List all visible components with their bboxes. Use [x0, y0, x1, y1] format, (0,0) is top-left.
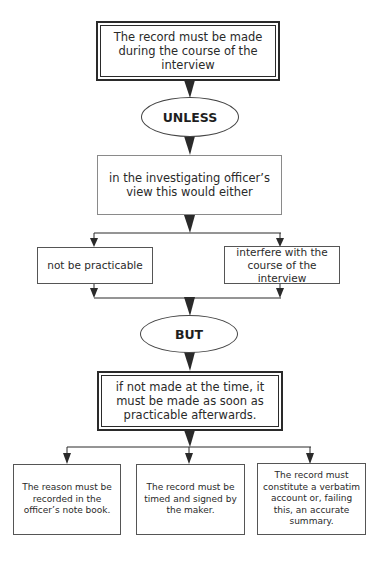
requirement-box-2: The record must be timed and signed by t…	[136, 464, 245, 535]
condition-box: in the investigating officer’s view this…	[97, 155, 282, 215]
requirement-box-1: The reason must be recorded in the offic…	[13, 464, 121, 535]
arrow-icon	[90, 288, 98, 298]
arrow-icon	[184, 136, 195, 155]
arrow-icon	[184, 430, 195, 447]
arrow-icon	[90, 238, 98, 247]
arrow-icon	[184, 297, 195, 316]
fallback-text: if not made at the time, it must be made…	[99, 380, 281, 422]
arrow-icon	[184, 80, 195, 98]
condition-text: in the investigating officer’s view this…	[98, 171, 281, 199]
requirement-text-2: The record must be timed and signed by t…	[137, 482, 244, 517]
requirement-text-1: The reason must be recorded in the offic…	[14, 482, 120, 517]
arrow-icon	[276, 288, 284, 298]
option-left-text: not be practicable	[41, 259, 148, 272]
requirement-text-3: The record must constitute a verbatim ac…	[258, 470, 365, 528]
option-right-text: interfere with the course of the intervi…	[225, 246, 339, 285]
unless-label: UNLESS	[163, 110, 218, 125]
but-ellipse: BUT	[140, 315, 238, 353]
arrow-icon	[184, 215, 195, 233]
unless-ellipse: UNLESS	[141, 97, 239, 137]
arrow-icon	[185, 453, 193, 464]
arrow-icon	[184, 352, 195, 371]
option-right-box: interfere with the course of the intervi…	[224, 246, 340, 284]
start-box: The record must be made during the cours…	[96, 21, 280, 81]
option-left-box: not be practicable	[37, 247, 153, 284]
arrow-icon	[63, 453, 71, 464]
requirement-box-3: The record must constitute a verbatim ac…	[257, 463, 366, 535]
but-label: BUT	[175, 327, 203, 342]
start-text: The record must be made during the cours…	[98, 30, 278, 72]
fallback-box: if not made at the time, it must be made…	[97, 371, 283, 431]
